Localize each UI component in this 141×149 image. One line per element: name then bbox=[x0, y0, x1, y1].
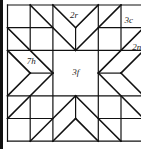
piece-label-top-right-corner: 3c bbox=[123, 15, 133, 25]
piece-label-center: 3f bbox=[71, 67, 81, 77]
diagonal-seam-line bbox=[76, 119, 99, 142]
diagonal-seam-line bbox=[121, 73, 141, 96]
piece-label-right-arm: 2n bbox=[132, 42, 141, 52]
diagonal-seam-line bbox=[76, 5, 99, 28]
piece-label-top-arm: 2r bbox=[70, 10, 79, 20]
diagonal-seam-line bbox=[53, 119, 76, 142]
quilt-block-diagram: 2r3c2n7h3f bbox=[0, 0, 141, 149]
piece-label-left-arm: 7h bbox=[27, 56, 36, 66]
diagonal-seam-line bbox=[8, 73, 31, 96]
diagonal-seam-line bbox=[121, 50, 141, 73]
